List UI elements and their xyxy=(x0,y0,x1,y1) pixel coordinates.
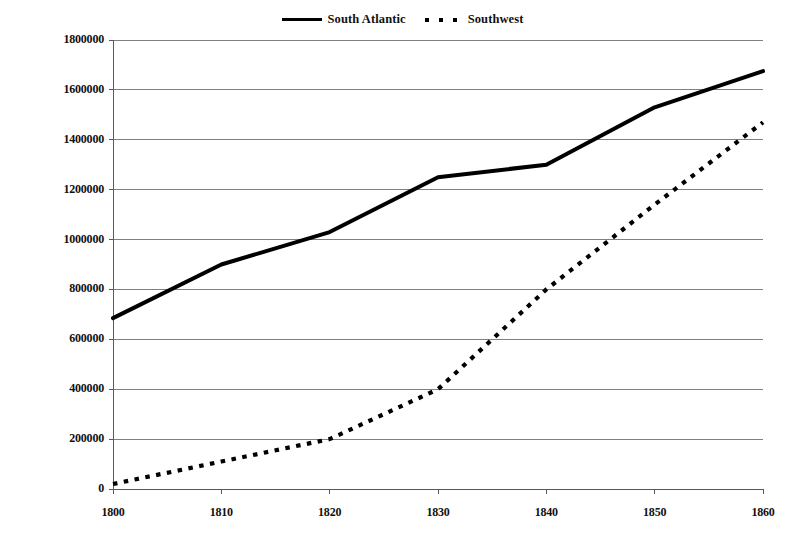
x-tick-label: 1850 xyxy=(643,505,666,519)
y-tick-label: 800000 xyxy=(69,281,104,296)
x-tick: 1840 xyxy=(506,502,586,520)
chart-container: South Atlantic Southwest 020000040000060… xyxy=(0,0,805,545)
y-tick-label: 1600000 xyxy=(63,82,104,97)
x-tick: 1810 xyxy=(181,502,261,520)
y-tick-label: 200000 xyxy=(69,431,104,446)
gridlines-group xyxy=(113,40,763,489)
y-tick-label: 0 xyxy=(98,481,104,496)
y-tick-label: 600000 xyxy=(69,331,104,346)
tickmarks-group xyxy=(109,40,763,494)
x-tick-label: 1810 xyxy=(210,505,233,519)
x-tick-label: 1820 xyxy=(318,505,341,519)
axes-group xyxy=(113,40,763,489)
x-tick: 1850 xyxy=(615,502,695,520)
x-tick: 1830 xyxy=(398,502,478,520)
x-tick-label: 1840 xyxy=(535,505,558,519)
y-tick-label: 1800000 xyxy=(63,32,104,47)
y-tick-label: 1400000 xyxy=(63,132,104,147)
x-tick: 1820 xyxy=(290,502,370,520)
y-tick-label: 1200000 xyxy=(63,182,104,197)
x-tick-label: 1800 xyxy=(101,505,124,519)
y-tick-label: 400000 xyxy=(69,381,104,396)
x-tick-label: 1830 xyxy=(426,505,449,519)
series-group xyxy=(113,71,763,484)
plot-area: 0200000400000600000800000100000012000001… xyxy=(0,0,805,545)
plot-svg xyxy=(0,0,805,545)
x-tick-label: 1860 xyxy=(751,505,774,519)
y-tick-label: 1000000 xyxy=(63,232,104,247)
x-tick: 1800 xyxy=(73,502,153,520)
x-tick: 1860 xyxy=(723,502,803,520)
